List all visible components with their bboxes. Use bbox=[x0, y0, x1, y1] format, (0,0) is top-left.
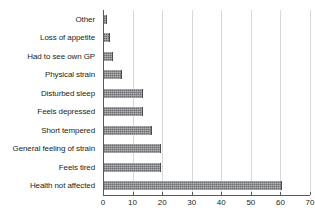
axis-tick-label: 10 bbox=[128, 198, 137, 207]
axis-tick-label: 0 bbox=[101, 198, 105, 207]
gridline bbox=[310, 10, 311, 195]
category-label: Physical strain bbox=[45, 70, 99, 79]
category-label: Feels depressed bbox=[37, 107, 99, 116]
category-label: Disturbed sleep bbox=[41, 89, 99, 98]
bar bbox=[103, 89, 143, 98]
axis-baseline bbox=[103, 195, 310, 196]
axis-tick-label: 50 bbox=[246, 198, 255, 207]
category-label: General feeling of strain bbox=[13, 144, 99, 153]
bar bbox=[103, 33, 110, 42]
axis-tick-label: 70 bbox=[306, 198, 315, 207]
bar-chart: OtherLoss of appetiteHad to see own GPPh… bbox=[0, 0, 315, 216]
bar-row bbox=[103, 10, 310, 29]
category-label: Other bbox=[75, 15, 99, 24]
bar-row bbox=[103, 29, 310, 48]
axis-tick-label: 40 bbox=[217, 198, 226, 207]
bar-row bbox=[103, 47, 310, 66]
bar-row bbox=[103, 103, 310, 122]
bar bbox=[103, 52, 113, 61]
value-axis: 010203040506070 bbox=[103, 195, 310, 216]
axis-tick-label: 30 bbox=[187, 198, 196, 207]
axis-tick bbox=[310, 192, 311, 195]
category-label: Feels tired bbox=[59, 163, 99, 172]
category-label: Had to see own GP bbox=[27, 52, 99, 61]
axis-tick-label: 20 bbox=[158, 198, 167, 207]
bar-series bbox=[103, 10, 310, 195]
bar bbox=[103, 144, 161, 153]
plot-area bbox=[103, 10, 310, 195]
bar bbox=[103, 181, 282, 190]
axis-tick-label: 60 bbox=[276, 198, 285, 207]
bar bbox=[103, 163, 161, 172]
bar bbox=[103, 107, 143, 116]
bar bbox=[103, 126, 152, 135]
category-label: Short tempered bbox=[41, 126, 99, 135]
bar-row bbox=[103, 66, 310, 85]
bar bbox=[103, 70, 122, 79]
category-label: Health not affected bbox=[30, 181, 99, 190]
bar-row bbox=[103, 140, 310, 159]
value-axis-line bbox=[103, 10, 104, 195]
bar-row bbox=[103, 84, 310, 103]
bar-row bbox=[103, 121, 310, 140]
category-axis: OtherLoss of appetiteHad to see own GPPh… bbox=[0, 10, 99, 195]
bar-row bbox=[103, 158, 310, 177]
bar-row bbox=[103, 177, 310, 196]
category-label: Loss of appetite bbox=[40, 33, 99, 42]
